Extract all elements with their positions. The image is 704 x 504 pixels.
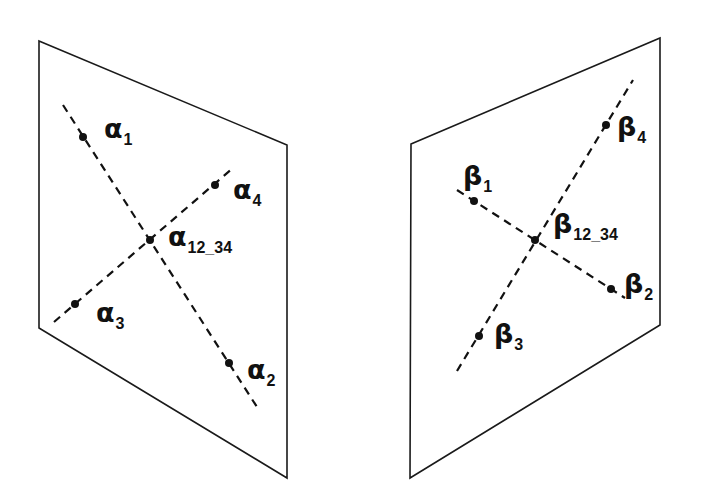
point-alpha1	[79, 133, 87, 141]
label-subscript: 3	[116, 315, 125, 332]
diagram-canvas	[0, 0, 704, 504]
label-subscript: 1	[483, 178, 492, 195]
label-alpha4: α4	[233, 176, 261, 203]
point-beta12-34	[531, 236, 539, 244]
label-beta12-34: β12_34	[553, 210, 618, 237]
point-beta2	[607, 285, 615, 293]
point-alpha2	[225, 359, 233, 367]
label-subscript: 4	[637, 129, 646, 146]
label-beta4: β4	[617, 113, 646, 140]
label-subscript: 3	[514, 336, 523, 353]
label-beta1: β1	[463, 162, 492, 189]
label-alpha3: α3	[96, 299, 124, 326]
point-alpha12-34	[146, 236, 154, 244]
point-alpha3	[71, 300, 79, 308]
point-beta3	[475, 332, 483, 340]
label-symbol: β	[624, 268, 643, 299]
label-alpha2: α2	[247, 356, 275, 383]
label-subscript: 1	[124, 131, 133, 148]
point-alpha4	[211, 181, 219, 189]
point-beta4	[602, 121, 610, 129]
label-subscript: 2	[644, 286, 653, 303]
label-symbol: α	[247, 354, 266, 385]
label-alpha12-34: α12_34	[168, 223, 232, 250]
point-beta1	[470, 197, 478, 205]
label-alpha1: α1	[104, 115, 132, 142]
label-symbol: α	[96, 297, 115, 328]
label-symbol: α	[104, 113, 123, 144]
label-symbol: β	[494, 318, 513, 349]
label-symbol: β	[463, 160, 482, 191]
right-image-plane	[410, 38, 660, 478]
label-beta2: β2	[624, 270, 653, 297]
label-beta3: β3	[494, 320, 523, 347]
label-subscript: 12_34	[188, 239, 233, 256]
label-symbol: β	[617, 111, 636, 142]
label-subscript: 2	[267, 372, 276, 389]
label-symbol: β	[553, 208, 572, 239]
label-subscript: 4	[253, 192, 262, 209]
label-symbol: α	[168, 221, 187, 252]
label-symbol: α	[233, 174, 252, 205]
label-subscript: 12_34	[573, 226, 618, 243]
